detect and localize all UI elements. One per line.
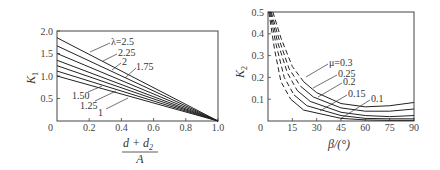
series-label: 1.25 [80,100,98,111]
y-axis-label: K1 [24,72,40,85]
leader-line [125,68,136,78]
y-tick-label: 0.4 [252,28,265,39]
leader-line [95,91,116,101]
figure-canvas: 0.51.01.52.000.20.40.60.81.0K1d + d2Aλ=2… [0,0,440,170]
x-axis-label: β/(°) [327,137,350,151]
series-dashed [273,12,304,82]
y-axis-label: K2 [233,66,249,79]
leader-line [106,98,128,109]
y-tick-label: 1.5 [41,48,54,59]
series-label: 0.15 [348,88,366,99]
y-tick-label: 0.5 [252,7,265,18]
x-tick-label: 15 [287,122,297,133]
x-tick-label: 1.0 [212,122,225,133]
leader-line [103,54,117,61]
leader-line [306,64,328,77]
x-axis-label-denominator: A [135,152,144,166]
origin-label: 0 [258,122,263,133]
y-tick-label: 1.0 [41,71,54,82]
series-label: μ=0.3 [329,57,353,68]
series-label: 2 [122,56,127,67]
series-label: 1.75 [136,61,154,72]
x-tick-label: 0.8 [180,122,193,133]
y-tick-label: 0.3 [252,50,265,61]
x-tick-label: 0.6 [147,122,160,133]
x-tick-label: 45 [336,122,346,133]
x-tick-label: 0.4 [115,122,128,133]
leader-line [318,83,342,97]
k2-chart: 0.10.20.30.40.50153045607590K2β/(°)μ=0.3… [233,7,419,152]
x-axis-label-numerator: d + d2 [123,136,153,152]
leader-line [90,43,110,52]
series-dashed [269,12,291,99]
x-tick-label: 90 [409,122,419,133]
y-tick-label: 0.2 [252,72,265,83]
leader-line [313,75,337,88]
y-tick-label: 0.5 [41,93,54,104]
x-tick-label: 75 [385,122,395,133]
x-tick-label: 0.2 [83,122,96,133]
series-dashed [271,12,300,86]
origin-label: 0 [48,122,53,133]
series-label: λ=2.5 [111,36,134,47]
y-tick-label: 2.0 [41,26,54,37]
series-label: 0.1 [371,93,384,104]
k1-chart: 0.51.01.52.000.20.40.60.81.0K1d + d2Aλ=2… [24,26,224,167]
series-label: 1 [98,107,103,118]
y-tick-label: 0.1 [252,94,265,105]
x-tick-label: 30 [312,122,322,133]
series-label: 0.2 [343,76,356,87]
leader-line [340,100,370,119]
x-tick-label: 60 [360,122,370,133]
